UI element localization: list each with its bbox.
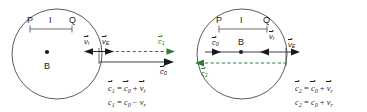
eq1-lhs-symbol-left: c [108,84,112,93]
c0-subscript-left: 0 [164,70,167,76]
equation-vector-left: c1 = c0 + vr [108,84,146,94]
vector-label-ve-right: vE [288,41,295,50]
vector-label-c2-right: c2 [201,70,208,79]
scale-label-p-right: P [216,16,222,25]
c0-symbol-right: c [212,39,216,47]
eq2-equals-right: = [304,97,309,107]
equation-scalar-left: c1 = c0 − vr [108,98,146,108]
eq1-c0-symbol-right: c [311,84,315,93]
ve-subscript-left: E [106,40,110,46]
eq1-vr-sub-left: r [144,88,146,94]
eq1-lhs-symbol-right: c [295,84,299,93]
eq1-c0-sub-left: 0 [128,88,131,94]
c0-subscript-right: 0 [216,41,219,47]
eq1-c0-sub-right: 0 [315,88,318,94]
vr-symbol-left: v [84,38,88,46]
c2-arrowhead-right [195,60,204,67]
diagram-panel-right: P I Q B c0 vr vE c2 c2 = c0 + vr c2 = c0 [183,0,367,112]
vr-symbol-right: v [269,33,273,41]
center-point-b-left [45,50,49,54]
scale-label-q-right: Q [263,16,270,25]
diagram-canvas: P I Q B vr vE c1 c0 c1 = c0 + vr c1 = c0 [0,0,367,112]
center-label-b-right: B [238,38,244,47]
ve-subscript-right: E [292,43,296,49]
vector-label-c1-left: c1 [158,38,165,47]
panel-right-graphics [183,0,367,112]
ve-symbol-left: v [102,38,106,46]
equation-vector-right: c2 = c0 + vr [295,84,333,94]
c2-symbol-right: c [201,70,205,78]
diagram-panel-left: P I Q B vr vE c1 c0 c1 = c0 + vr c1 = c0 [0,0,184,112]
c0-symbol-left: c [160,68,164,76]
vr-arrowhead-left [84,48,93,55]
scale-label-q-left: Q [69,16,76,25]
eq2-lhs-sub-right: 2 [299,102,302,108]
eq2-c0-sub-left: 0 [128,102,131,108]
eq2-lhs-sub-left: 1 [112,102,115,108]
equation-scalar-right: c2 = c0 + vr [295,98,333,108]
body-circle-left [12,9,102,99]
vector-label-c0-left: c0 [160,68,167,77]
eq2-vr-sub-left: r [144,102,146,108]
scale-label-p-left: P [27,16,33,25]
eq2-operator-left: − [133,97,138,107]
vector-label-vr-left: vr [84,38,90,47]
eq1-equals-left: = [117,83,122,93]
eq2-vr-sub-right: r [331,102,333,108]
ve-symbol-right: v [288,41,292,49]
eq1-operator-left: + [133,83,138,93]
vector-label-vr-right: vr [269,33,275,42]
scale-label-i-right: I [240,16,243,25]
eq2-equals-left: = [117,97,122,107]
vr-subscript-left: r [88,40,90,46]
c1-arrowhead-left [167,48,176,55]
vector-label-ve-left: vE [102,38,109,47]
eq1-vr-symbol-right: v [327,84,331,93]
eq2-operator-right: + [320,97,325,107]
scale-label-i-left: I [49,16,52,25]
eq1-vr-sub-right: r [331,88,333,94]
vr-subscript-right: r [273,35,275,41]
c0-arrowhead-left [164,58,174,65]
eq1-equals-right: = [304,83,309,93]
ve-arrowhead-left [105,48,114,55]
eq1-vr-symbol-left: v [140,84,144,93]
eq1-operator-right: + [320,83,325,93]
c2-subscript-right: 2 [205,72,208,78]
eq1-c0-symbol-left: c [124,84,128,93]
eq1-lhs-sub-left: 1 [112,88,115,94]
c0-arrowhead-right [212,48,221,55]
center-label-b-left: B [44,62,50,71]
vector-label-c0-right: c0 [212,39,219,48]
vr-arrowhead-right [260,48,269,55]
eq1-lhs-sub-right: 2 [299,88,302,94]
c1-subscript-left: 1 [162,40,165,46]
c1-symbol-left: c [158,38,162,46]
eq2-c0-sub-right: 0 [315,102,318,108]
